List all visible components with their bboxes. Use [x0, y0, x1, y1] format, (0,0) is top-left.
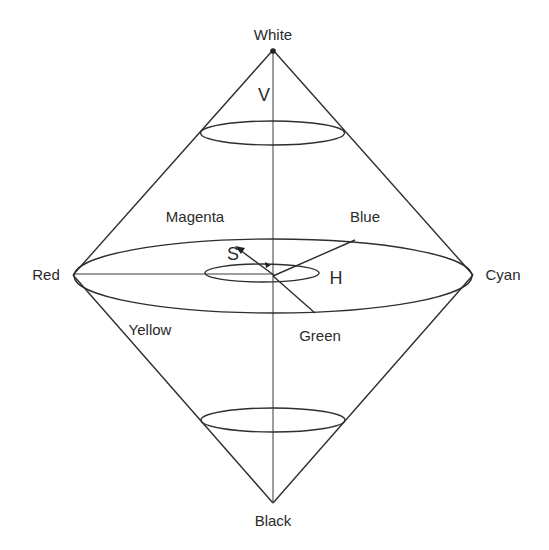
label-magenta: Magenta — [166, 208, 225, 225]
saturation-arrow-line — [240, 250, 275, 276]
label-v: V — [258, 85, 270, 105]
white-apex-dot — [270, 48, 276, 54]
label-blue: Blue — [350, 208, 380, 225]
hue-arrowhead — [265, 262, 271, 268]
cone-edge-upper-right — [273, 50, 473, 275]
label-green: Green — [299, 327, 341, 344]
label-white: White — [254, 26, 292, 43]
green-axis-line — [273, 276, 315, 313]
cone-edge-upper-left — [73, 50, 273, 275]
label-cyan: Cyan — [485, 266, 520, 283]
cone-edge-lower-right — [273, 275, 473, 503]
label-yellow: Yellow — [129, 321, 172, 338]
hsv-cone-diagram: White V Magenta Blue S H Red Cyan Yellow… — [0, 0, 549, 550]
cone-edge-lower-left — [73, 275, 273, 503]
label-s: S — [227, 244, 239, 264]
label-black: Black — [255, 512, 292, 529]
blue-axis-line — [273, 240, 355, 276]
label-h: H — [330, 268, 343, 288]
label-red: Red — [32, 266, 60, 283]
